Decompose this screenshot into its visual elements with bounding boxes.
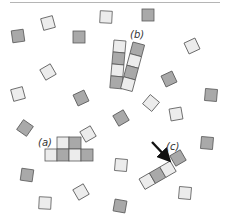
tile-gray [57, 149, 69, 161]
tile-gray [20, 168, 34, 182]
tile-light [143, 95, 160, 112]
tile-gray [17, 120, 34, 137]
tile-gray [113, 110, 129, 126]
label-c: (c) [166, 141, 179, 152]
tile-light [113, 40, 126, 53]
tile-gray [161, 71, 177, 87]
tile-light [41, 16, 56, 31]
tile-light [11, 87, 26, 102]
tile-gray [11, 29, 25, 43]
tile-light [45, 149, 57, 161]
structure-c-attaching-tile [170, 150, 186, 166]
tile-light [57, 137, 69, 149]
tile-light [40, 64, 56, 80]
tile-gray [73, 31, 85, 43]
label-a: (a) [38, 137, 52, 148]
tile-gray [81, 149, 93, 161]
loose-tiles [11, 9, 218, 213]
tile-gray [204, 88, 217, 101]
tile-light [114, 158, 127, 171]
tile-light [39, 197, 52, 210]
tile-gray [170, 150, 186, 166]
tile-light [100, 11, 113, 24]
tile-light [184, 38, 200, 54]
tile-gray [113, 199, 127, 213]
tile-light [80, 126, 96, 142]
self-assembly-diagram: (a) (b) (c) [0, 0, 230, 219]
tile-gray [112, 52, 125, 65]
tile-light [69, 149, 81, 161]
tile-gray [200, 136, 213, 149]
tile-light [121, 77, 136, 92]
tile-gray [69, 137, 81, 149]
label-b: (b) [130, 29, 144, 40]
tile-light [178, 186, 191, 199]
structure-c-chain [139, 161, 176, 189]
tile-light [73, 184, 89, 200]
tile-light [111, 64, 124, 77]
tile-gray [142, 9, 154, 21]
tile-gray [73, 90, 89, 106]
tile-light [169, 107, 183, 121]
